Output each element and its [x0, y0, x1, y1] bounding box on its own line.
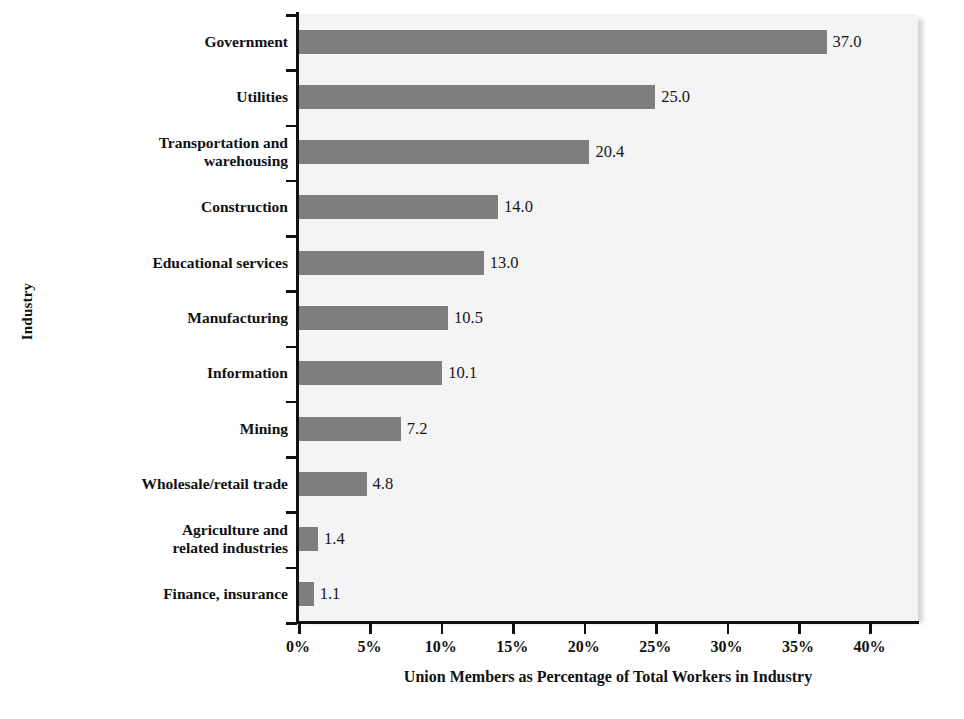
y-axis-tick	[286, 567, 297, 570]
bar-value-label: 14.0	[504, 195, 533, 219]
bar	[298, 195, 498, 219]
y-axis-tick-label: Finance, insurance	[60, 585, 288, 603]
y-axis-tick	[286, 346, 297, 349]
y-axis-tick-label: Information	[60, 364, 288, 382]
x-axis-tick-label: 15%	[496, 638, 528, 656]
y-axis-tick	[286, 14, 297, 17]
y-axis-tick-labels: GovernmentUtilitiesTransportation andwar…	[60, 14, 288, 622]
x-axis-tick	[798, 623, 801, 634]
y-axis-tick-label-line: Mining	[60, 420, 288, 438]
y-axis-tick	[286, 290, 297, 293]
x-axis-tick	[369, 623, 372, 634]
x-axis-tick	[298, 623, 301, 634]
bar-value-label: 7.2	[407, 417, 428, 441]
bar	[298, 85, 655, 109]
y-axis-tick-label: Utilities	[60, 88, 288, 106]
y-axis-tick-label-line: Information	[60, 364, 288, 382]
y-axis-tick	[286, 622, 297, 625]
bar	[298, 30, 827, 54]
y-axis-tick	[286, 125, 297, 128]
bar	[298, 472, 367, 496]
x-axis-line	[296, 621, 919, 624]
y-axis-tick-label: Mining	[60, 420, 288, 438]
bar	[298, 582, 314, 606]
y-axis-tick-label-line: Transportation and	[60, 134, 288, 152]
y-axis-tick-label-line: Agriculture and	[60, 521, 288, 539]
y-axis-tick-label: Construction	[60, 198, 288, 216]
bar-value-label: 25.0	[661, 85, 690, 109]
x-axis-tick	[727, 623, 730, 634]
bar-chart-figure: Industry GovernmentUtilitiesTransportati…	[0, 0, 964, 719]
bar	[298, 140, 589, 164]
y-axis-tick-label-line: Manufacturing	[60, 309, 288, 327]
y-axis-tick-label: Educational services	[60, 254, 288, 272]
x-axis-title: Union Members as Percentage of Total Wor…	[298, 668, 918, 686]
y-axis-tick-label: Government	[60, 33, 288, 51]
plot-area: 37.025.020.414.013.010.510.17.24.81.41.1	[298, 14, 918, 622]
y-axis-tick	[286, 69, 297, 72]
bar-value-label: 10.5	[454, 306, 483, 330]
bar-value-label: 20.4	[595, 140, 624, 164]
bar-value-label: 4.8	[373, 472, 394, 496]
y-axis-tick-label: Wholesale/retail trade	[60, 475, 288, 493]
y-axis-tick-label-line: warehousing	[60, 152, 288, 170]
bar	[298, 417, 401, 441]
bar	[298, 251, 484, 275]
y-axis-tick-label: Manufacturing	[60, 309, 288, 327]
y-axis-title-label: Industry	[20, 282, 37, 339]
y-axis-tick	[286, 511, 297, 514]
y-axis-line	[296, 12, 299, 624]
y-axis-tick-label-line: Government	[60, 33, 288, 51]
y-axis-tick-label-line: Construction	[60, 198, 288, 216]
x-axis-tick-label: 25%	[639, 638, 671, 656]
x-axis-tick-label: 5%	[357, 638, 381, 656]
y-axis-tick	[286, 456, 297, 459]
x-axis-tick-label: 0%	[286, 638, 310, 656]
y-axis-tick	[286, 180, 297, 183]
bar-value-label: 10.1	[448, 361, 477, 385]
x-axis-tick-label: 30%	[711, 638, 743, 656]
y-axis-tick-label-line: Utilities	[60, 88, 288, 106]
x-axis-tick-label: 10%	[425, 638, 457, 656]
x-axis-tick	[584, 623, 587, 634]
x-axis-tick	[655, 623, 658, 634]
bar	[298, 306, 448, 330]
y-axis-tick	[286, 401, 297, 404]
bar-value-label: 37.0	[833, 30, 862, 54]
bar	[298, 527, 318, 551]
y-axis-tick-label-line: Wholesale/retail trade	[60, 475, 288, 493]
bar-value-label: 1.1	[320, 582, 341, 606]
y-axis-tick-label-line: Educational services	[60, 254, 288, 272]
y-axis-title: Industry	[0, 0, 56, 622]
bar-value-label: 1.4	[324, 527, 345, 551]
x-axis-tick-label: 20%	[568, 638, 600, 656]
bar	[298, 361, 442, 385]
y-axis-tick-label: Agriculture andrelated industries	[60, 521, 288, 557]
y-axis-tick	[286, 235, 297, 238]
x-axis-tick	[869, 623, 872, 634]
x-axis-tick	[441, 623, 444, 634]
y-axis-tick-label: Transportation andwarehousing	[60, 134, 288, 170]
bar-value-label: 13.0	[490, 251, 519, 275]
y-axis-tick-label-line: Finance, insurance	[60, 585, 288, 603]
x-axis-tick-label: 35%	[782, 638, 814, 656]
x-axis-tick-label: 40%	[853, 638, 885, 656]
x-axis-tick	[512, 623, 515, 634]
y-axis-tick-label-line: related industries	[60, 539, 288, 557]
